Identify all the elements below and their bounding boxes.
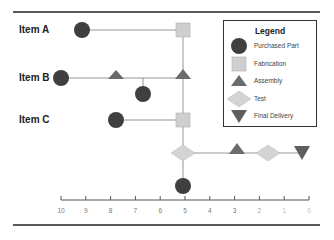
purchased-part-icon [231,38,247,54]
row-label-item-b: Item B [19,72,50,83]
purchased-part-icon [108,112,124,128]
legend-label-final-delivery: Final Delivery [254,112,293,119]
fabrication-icon [176,23,190,37]
purchased-part-icon [53,70,69,86]
axis-tick-label: 7 [127,207,143,214]
axis-tick-label: 4 [202,207,218,214]
axis-tick-label: 10 [53,207,69,214]
axis-tick-label: 1 [276,207,292,214]
fabrication-icon [176,113,190,127]
row-label-item-a: Item A [19,24,49,35]
assembly-icon [231,75,247,86]
test-icon [256,145,280,161]
purchased-part-icon [74,22,90,38]
axis-tick-label: 9 [78,207,94,214]
legend-label-purchased-part: Purchased Part [254,42,299,49]
legend-label-fabrication: Fabrication [254,60,286,67]
axis-tick-label: 3 [227,207,243,214]
row-label-item-c: Item C [19,114,50,125]
axis-tick-label: 5 [177,207,193,214]
legend-label-assembly: Assembly [254,77,282,84]
final-delivery-icon [231,110,247,123]
test-icon [227,91,251,107]
assembly-icon [229,143,245,154]
legend: Legend Purchased Part Fabrication Assemb… [223,20,317,127]
axis-tick-label: 6 [152,207,168,214]
assembly-icon [108,70,124,79]
time-axis [61,196,309,200]
test-icon [171,145,195,161]
purchased-part-icon [135,86,151,102]
purchased-part-icon [175,178,191,194]
fabrication-icon [232,57,246,71]
axis-tick-label: 0 [301,207,317,214]
axis-tick-label: 2 [251,207,267,214]
axis-tick-label: 8 [103,207,119,214]
assembly-icon [175,69,191,79]
legend-label-test: Test [254,95,266,102]
